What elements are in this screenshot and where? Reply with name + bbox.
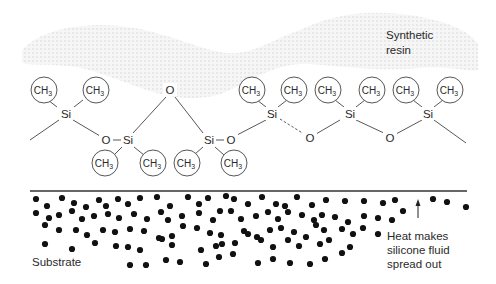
heat-label-line1: Heat makes bbox=[387, 230, 449, 242]
substrate-particle bbox=[44, 203, 50, 209]
substrate-particle bbox=[265, 209, 271, 215]
substrate-particle bbox=[42, 241, 48, 247]
substrate-particle bbox=[259, 194, 265, 200]
substrate-particle bbox=[177, 259, 183, 265]
bond-line bbox=[133, 97, 166, 133]
silicon-atom: Si bbox=[204, 134, 214, 146]
substrate-particle bbox=[463, 204, 469, 210]
substrate-particle bbox=[179, 213, 185, 219]
methyl-group: CH3 bbox=[92, 150, 118, 176]
substrate-particle bbox=[84, 232, 90, 238]
substrate-particle bbox=[71, 200, 77, 206]
substrate-particle bbox=[194, 225, 200, 231]
substrate-particle bbox=[69, 246, 75, 252]
substrate-particle bbox=[105, 211, 111, 217]
substrate-particle bbox=[291, 229, 297, 235]
substrate-particle bbox=[198, 247, 204, 253]
substrate-particle bbox=[180, 223, 186, 229]
substrate-particle bbox=[360, 225, 366, 231]
bond-line bbox=[195, 147, 203, 154]
substrate-particle bbox=[294, 194, 300, 200]
silicon-atom: Si bbox=[61, 108, 71, 120]
substrate-particle bbox=[210, 217, 216, 223]
bond-line bbox=[316, 120, 340, 134]
substrate-particle bbox=[347, 244, 353, 250]
substrate-particle bbox=[231, 196, 237, 202]
bond-line bbox=[73, 120, 100, 136]
substrate-particle bbox=[207, 230, 213, 236]
substrate-particle bbox=[196, 201, 202, 207]
substrate-particle bbox=[165, 217, 171, 223]
substrate-particle bbox=[287, 260, 293, 266]
substrate-particle bbox=[131, 211, 137, 217]
substrate-particle bbox=[185, 194, 191, 200]
substrate-particle bbox=[91, 213, 97, 219]
substrate-particle bbox=[113, 243, 119, 249]
bond-line bbox=[215, 147, 224, 155]
substrate-particle bbox=[285, 209, 291, 215]
bond-line bbox=[413, 100, 422, 107]
substrate-particle bbox=[69, 208, 75, 214]
oxygen-atom: O bbox=[166, 84, 175, 96]
substrate-particle bbox=[33, 196, 39, 202]
substrate-particle bbox=[92, 240, 98, 246]
silicon-atom: Si bbox=[123, 134, 133, 146]
bond-line bbox=[237, 120, 266, 135]
substrate-particle bbox=[444, 199, 450, 205]
siloxane-chain: CH3CH3CH3CH3CH3CH3CH3CH3CH3CH3CH3CH3SiOS… bbox=[30, 77, 466, 176]
bond-line bbox=[356, 120, 386, 134]
bond-line bbox=[74, 100, 83, 107]
substrate-particle bbox=[79, 216, 85, 222]
substrate-particle bbox=[375, 215, 381, 221]
methyl-group: CH3 bbox=[281, 77, 307, 103]
substrate-particle bbox=[125, 201, 131, 207]
substrate-particle bbox=[282, 203, 288, 209]
substrate-particle bbox=[375, 231, 381, 237]
substrate-particle bbox=[342, 198, 348, 204]
substrate-particle bbox=[205, 195, 211, 201]
methyl-group: CH3 bbox=[31, 77, 57, 103]
substrate-particle bbox=[309, 202, 315, 208]
substrate-particle bbox=[42, 222, 48, 228]
substrate-particle bbox=[116, 215, 122, 221]
bond-line bbox=[134, 147, 144, 155]
substrate-particle bbox=[392, 197, 398, 203]
bond-line bbox=[396, 120, 422, 134]
substrate-particle bbox=[196, 210, 202, 216]
substrate-particle bbox=[223, 193, 229, 199]
substrate-particle bbox=[137, 247, 143, 253]
substrate-particle bbox=[96, 197, 102, 203]
substrate-particle bbox=[270, 244, 276, 250]
substrate-particle bbox=[270, 256, 276, 262]
substrate-particle bbox=[255, 260, 261, 266]
substrate-particle bbox=[361, 213, 367, 219]
substrate-particle bbox=[143, 262, 149, 268]
substrate-particle bbox=[59, 195, 65, 201]
methyl-group: CH3 bbox=[140, 150, 166, 176]
substrate-particle bbox=[154, 194, 160, 200]
substrate-particle bbox=[322, 256, 328, 262]
substrate-particle bbox=[169, 233, 175, 239]
substrate-particle bbox=[230, 251, 236, 257]
methyl-group: CH3 bbox=[315, 77, 341, 103]
substrate-particle bbox=[100, 227, 106, 233]
silicon-atom: Si bbox=[423, 108, 433, 120]
silicon-atom: Si bbox=[345, 108, 355, 120]
oxygen-atom: O bbox=[306, 132, 315, 144]
substrate-particle bbox=[56, 212, 62, 218]
methyl-group: CH3 bbox=[221, 150, 247, 176]
methyl-group: CH3 bbox=[239, 77, 265, 103]
substrate-particle bbox=[400, 208, 406, 214]
silicone-diagram: Synthetic resin CH3CH3CH3CH3CH3CH3CH3CH3… bbox=[0, 0, 496, 284]
substrate-particle bbox=[317, 241, 323, 247]
substrate-particle bbox=[137, 195, 143, 201]
substrate-particle bbox=[141, 228, 147, 234]
substrate-particle bbox=[361, 198, 367, 204]
substrate-particle bbox=[258, 237, 264, 243]
oxygen-atom: O bbox=[102, 134, 111, 146]
bond-line bbox=[278, 100, 287, 107]
methyl-group: CH3 bbox=[359, 77, 385, 103]
bond-line bbox=[30, 120, 59, 140]
substrate-particle bbox=[273, 201, 279, 207]
substrate-particle bbox=[389, 217, 395, 223]
